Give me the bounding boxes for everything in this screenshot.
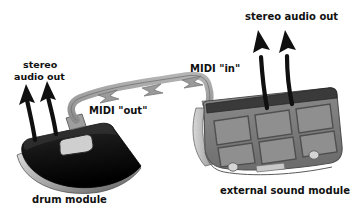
diagram-svg: stereo audio out MIDI "out" MIDI "in" st… xyxy=(0,0,351,215)
left-audio-out-arrows xyxy=(19,81,56,140)
diagram-canvas: stereo audio out MIDI "out" MIDI "in" st… xyxy=(0,0,351,215)
sound-module-pad-3[interactable] xyxy=(296,104,333,133)
sound-module-pad-2[interactable] xyxy=(255,110,292,139)
external-sound-module-caption: external sound module xyxy=(220,185,350,196)
drum-module-caption: drum module xyxy=(32,194,107,205)
sound-module-pad-5[interactable] xyxy=(259,137,296,164)
sound-module-pad-4[interactable] xyxy=(218,143,255,167)
midi-in-label: MIDI "in" xyxy=(190,63,240,74)
left-audio-out-label-line2: audio out xyxy=(14,71,65,82)
sound-module-pad-1[interactable] xyxy=(214,116,251,145)
left-audio-cable-1 xyxy=(27,100,35,140)
sound-module-knob-left[interactable] xyxy=(228,163,238,171)
midi-out-label: MIDI "out" xyxy=(89,105,147,116)
drum-module[interactable] xyxy=(17,114,141,193)
right-audio-arrowhead-1 xyxy=(253,30,270,53)
sound-module-knob-right[interactable] xyxy=(309,151,319,159)
left-audio-cable-2 xyxy=(48,97,56,134)
left-audio-out-label-line1: stereo xyxy=(23,59,58,70)
right-audio-arrowhead-2 xyxy=(279,30,296,53)
right-audio-out-label: stereo audio out xyxy=(245,11,338,22)
